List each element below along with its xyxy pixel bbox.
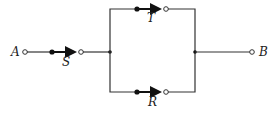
- terminal-a-node: [23, 50, 28, 55]
- wire-left-top: [110, 9, 136, 52]
- switch-s-label: S: [62, 55, 70, 69]
- switch-t-contact: [164, 7, 169, 12]
- switch-r-label: R: [147, 95, 157, 109]
- circuit-diagram: A S T R B: [0, 0, 275, 122]
- wire-t-to-right: [168, 9, 195, 52]
- switch-t-label: T: [147, 11, 156, 25]
- terminal-a-label: A: [10, 45, 20, 59]
- switch-t: T: [134, 6, 168, 25]
- terminal-b-label: B: [258, 45, 268, 59]
- switch-s-contact: [79, 50, 84, 55]
- wire-left-bottom: [110, 52, 136, 92]
- switch-r-contact: [164, 90, 169, 95]
- terminal-b-node: [250, 50, 255, 55]
- switch-s: S: [49, 49, 83, 69]
- wire-r-to-right: [168, 52, 195, 92]
- switch-r: R: [134, 89, 168, 109]
